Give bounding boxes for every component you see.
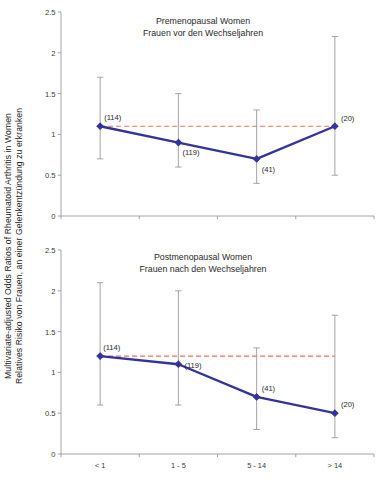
y-tick-label: 0 <box>51 450 55 459</box>
y-axis-label-line-1: Multivariate-adjusted Odds Ratios of Rhe… <box>3 108 14 384</box>
y-axis-label: Multivariate-adjusted Odds Ratios of Rhe… <box>0 0 28 492</box>
series-line <box>100 126 335 159</box>
chart-title-postmenopausal: Postmenopausal Women Frauen nach den Wec… <box>88 252 318 275</box>
y-tick-label: 2.5 <box>45 8 56 17</box>
data-point-marker <box>332 410 338 416</box>
y-tick-label: 2 <box>51 287 55 296</box>
chart-panel-postmenopausal: 00.511.522.5< 11 - 55 - 14> 14(114)(119)… <box>28 246 378 492</box>
data-point-label: (119) <box>182 148 200 157</box>
chart-title-text: Premenopausal Women <box>88 16 318 28</box>
y-tick-label: 0.5 <box>45 171 56 180</box>
y-tick-label: 2.5 <box>45 246 56 255</box>
data-point-label: (20) <box>341 400 355 409</box>
data-point-marker <box>97 353 103 359</box>
x-tick-label: > 14 <box>328 461 343 470</box>
series-line <box>100 356 335 413</box>
data-point-label: (20) <box>341 114 355 123</box>
data-point-marker <box>175 139 181 145</box>
chart-subtitle-text: Frauen nach den Wechseljahren <box>88 264 318 276</box>
y-tick-label: 1.5 <box>45 328 56 337</box>
plot-area-postmenopausal: 00.511.522.5< 11 - 55 - 14> 14(114)(119)… <box>28 246 378 492</box>
y-axis-label-line-2: Relatives Risiko von Frauen, an einer Ge… <box>14 108 25 384</box>
y-tick-label: 1 <box>51 368 55 377</box>
data-point-label: (114) <box>103 343 121 352</box>
y-tick-label: 1 <box>51 130 55 139</box>
y-tick-label: 1.5 <box>45 90 56 99</box>
data-point-label: (114) <box>104 113 122 122</box>
x-tick-label: < 1 <box>95 461 105 470</box>
figure-root: Multivariate-adjusted Odds Ratios of Rhe… <box>0 0 378 492</box>
data-point-label: (41) <box>262 384 276 393</box>
data-point-marker <box>97 123 103 129</box>
chart-subtitle-text: Frauen vor den Wechseljahren <box>88 28 318 40</box>
data-point-label: (41) <box>262 165 276 174</box>
y-tick-label: 0 <box>51 212 55 221</box>
chart-title-text: Postmenopausal Women <box>88 252 318 264</box>
chart-panel-premenopausal: 00.511.522.5(114)(119)(41)(20) Premenopa… <box>28 0 378 246</box>
x-tick-label: 5 - 14 <box>247 461 266 470</box>
data-point-label: (119) <box>184 361 202 370</box>
y-tick-label: 0.5 <box>45 409 56 418</box>
chart-title-premenopausal: Premenopausal Women Frauen vor den Wechs… <box>88 16 318 39</box>
y-tick-label: 2 <box>51 49 55 58</box>
x-tick-label: 1 - 5 <box>171 461 186 470</box>
